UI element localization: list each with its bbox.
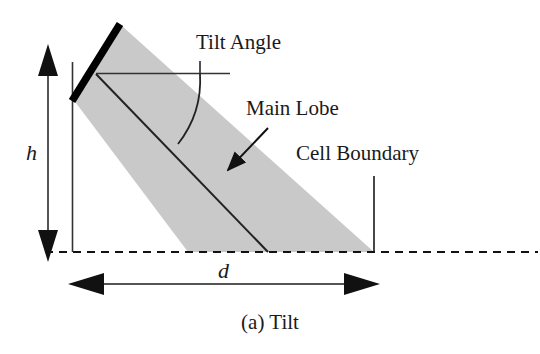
figure-caption: (a) Tilt [0, 310, 540, 335]
tilt-diagram-figure: Tilt Angle Main Lobe Cell Boundary h d (… [0, 0, 540, 354]
tilt-angle-label: Tilt Angle [196, 30, 281, 55]
height-dimension-arrow [38, 44, 58, 262]
main-lobe-beam [73, 26, 374, 252]
cell-boundary-label: Cell Boundary [296, 141, 419, 166]
main-lobe-label: Main Lobe [246, 96, 339, 121]
distance-label: d [218, 258, 229, 284]
height-label: h [26, 140, 37, 166]
